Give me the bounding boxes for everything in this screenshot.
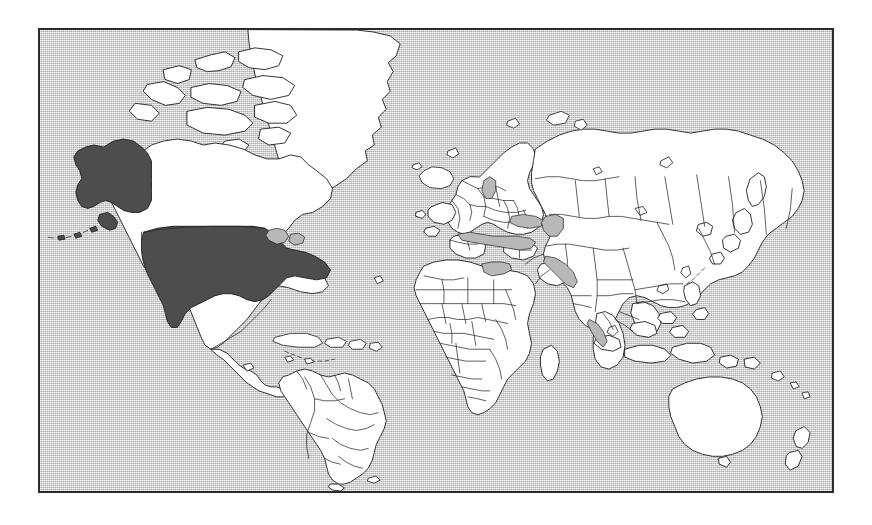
world-map-figure bbox=[0, 0, 872, 525]
landmass-africa bbox=[414, 260, 559, 415]
landmass-iceland bbox=[412, 163, 454, 189]
landmass-australia bbox=[669, 377, 763, 467]
map-frame bbox=[38, 28, 834, 493]
landmass-new-zealand bbox=[785, 427, 810, 471]
world-map-svg bbox=[40, 30, 832, 491]
landmass-south-america bbox=[279, 369, 386, 491]
aleutian-islands bbox=[48, 226, 98, 240]
